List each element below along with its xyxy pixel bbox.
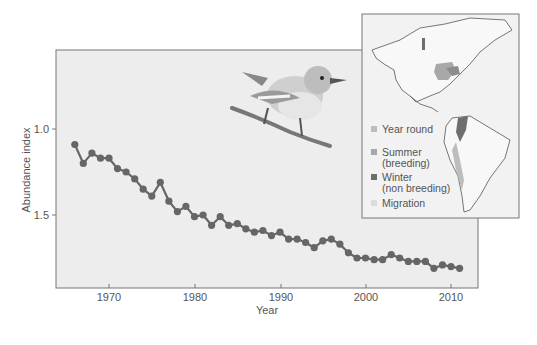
data-point xyxy=(114,165,121,172)
legend-swatch-migration xyxy=(371,200,377,206)
data-point xyxy=(302,239,309,246)
data-point xyxy=(71,141,78,148)
x-tick-1980: 1980 xyxy=(183,291,207,303)
data-point xyxy=(80,160,87,167)
legend-swatch-winter xyxy=(371,174,377,180)
data-point xyxy=(422,258,429,265)
data-point xyxy=(362,254,369,261)
y-tick-1.5: 1.5 xyxy=(34,209,49,221)
data-point xyxy=(131,175,138,182)
y-axis-title: Abundance index xyxy=(20,127,32,213)
data-point xyxy=(123,168,130,175)
data-point xyxy=(456,265,463,272)
data-point xyxy=(353,254,360,261)
legend-migration: Migration xyxy=(382,197,425,209)
data-point xyxy=(336,241,343,248)
data-point xyxy=(225,222,232,229)
y-tick-1.0: 1.0 xyxy=(34,123,49,135)
data-point xyxy=(217,213,224,220)
data-point xyxy=(191,213,198,220)
data-point xyxy=(268,232,275,239)
x-axis: 1970 1980 1990 2000 2010 Year xyxy=(97,284,463,316)
data-point xyxy=(242,225,249,232)
data-point xyxy=(294,236,301,243)
data-point xyxy=(276,229,283,236)
x-tick-1970: 1970 xyxy=(97,291,121,303)
data-point xyxy=(379,256,386,263)
data-point xyxy=(447,263,454,270)
data-point xyxy=(208,222,215,229)
data-point xyxy=(148,193,155,200)
x-axis-title: Year xyxy=(256,304,279,316)
legend-winter-sub: (non breeding) xyxy=(382,182,450,194)
data-point xyxy=(319,237,326,244)
data-point xyxy=(371,256,378,263)
data-point xyxy=(388,251,395,258)
x-tick-2010: 2010 xyxy=(439,291,463,303)
data-point xyxy=(97,155,104,162)
data-point xyxy=(413,258,420,265)
data-point xyxy=(234,220,241,227)
legend-swatch-year-round xyxy=(371,126,377,132)
data-point xyxy=(105,155,112,162)
chart-figure: 1.0 1.5 Abundance index 1970 1980 1990 2… xyxy=(0,0,537,345)
y-axis: 1.0 1.5 Abundance index xyxy=(20,123,56,221)
x-tick-1990: 1990 xyxy=(269,291,293,303)
legend-swatch-summer xyxy=(371,149,377,155)
data-point xyxy=(328,236,335,243)
x-tick-2000: 2000 xyxy=(354,291,378,303)
data-point xyxy=(200,211,207,218)
data-point xyxy=(311,244,318,251)
data-point xyxy=(345,249,352,256)
legend-year-round: Year round xyxy=(382,123,433,135)
data-point xyxy=(439,261,446,268)
data-point xyxy=(396,254,403,261)
data-point xyxy=(165,198,172,205)
data-point xyxy=(405,258,412,265)
legend-summer-sub: (breeding) xyxy=(382,157,430,169)
data-point xyxy=(285,236,292,243)
range-map-inset: Year round Summer (breeding) Winter (non… xyxy=(362,14,519,218)
data-point xyxy=(140,186,147,193)
data-point xyxy=(182,203,189,210)
data-point xyxy=(157,179,164,186)
data-point xyxy=(259,227,266,234)
data-point xyxy=(251,229,258,236)
data-point xyxy=(88,150,95,157)
data-point xyxy=(430,265,437,272)
data-point xyxy=(174,208,181,215)
